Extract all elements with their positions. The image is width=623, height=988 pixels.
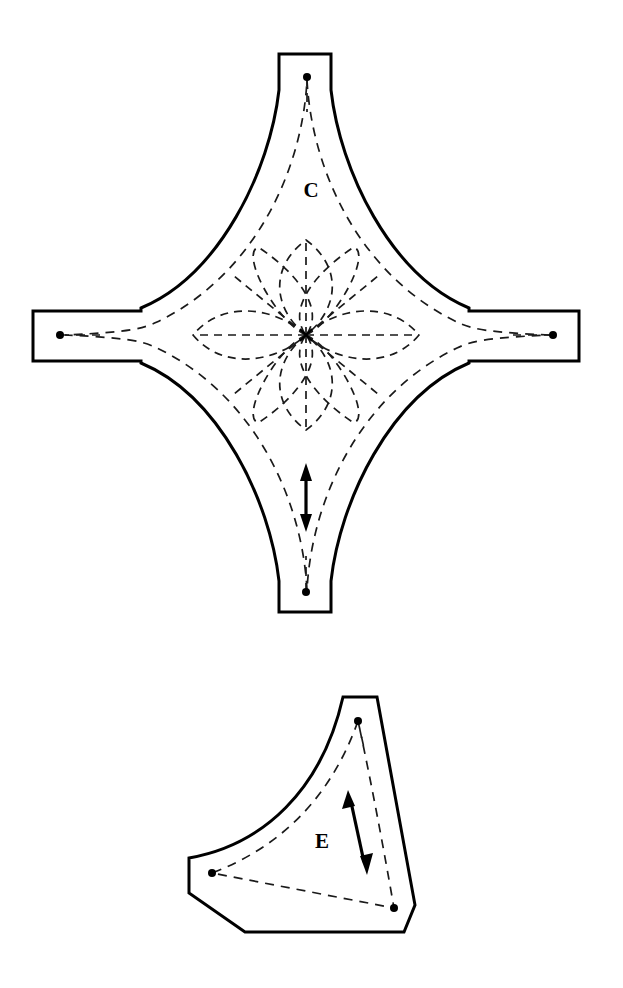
piece-c-top-dot[interactable] (303, 73, 311, 81)
piece-c-left-dot[interactable] (56, 331, 64, 339)
piece-c-bottom-dot[interactable] (302, 588, 310, 596)
pattern-diagram-canvas: C E (0, 0, 623, 988)
piece-e-label: E (315, 829, 329, 853)
piece-c-label: C (303, 178, 318, 202)
piece-e-left-dot[interactable] (208, 869, 216, 877)
piece-c-group[interactable]: C (33, 54, 579, 612)
piece-e-apex-dot[interactable] (354, 717, 362, 725)
piece-e-outline[interactable] (189, 697, 415, 932)
piece-c-right-dot[interactable] (549, 331, 557, 339)
piece-e-bottom-right-dot[interactable] (390, 904, 398, 912)
piece-e-group[interactable]: E (189, 697, 415, 932)
pattern-sheet: C E (0, 0, 623, 988)
